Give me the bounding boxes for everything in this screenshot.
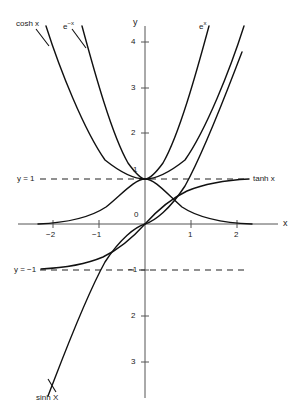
hyperbolic-functions-figure: y x 0 −2 −1 1 2 4 3 2 1 −1 2 3 cosh x e−… [0,0,297,415]
x-tick-label--2: −2 [46,231,55,239]
exp-pos-exponent: x [203,20,206,26]
x-tick-label-2: 2 [234,231,238,239]
asymptote-label-lower: y = −1 [14,266,36,274]
y-tick-label--3: 3 [131,358,135,366]
y-tick-label-1: 1 [133,166,137,174]
x-tick-label--1: −1 [92,231,101,239]
curve-exp-positive-x [38,26,209,224]
y-tick-label-2: 2 [131,129,135,137]
plot-canvas [0,0,297,415]
curve-label-cosh: cosh x [16,20,39,28]
x-tick-label-1: 1 [188,231,192,239]
y-tick-label--1: −1 [128,266,137,274]
asymptote-label-upper: y = 1 [17,175,35,183]
origin-label: 0 [134,211,138,219]
y-tick-label-3: 3 [131,84,135,92]
y-axis-label: y [133,18,138,27]
y-tick-label--2: 2 [131,312,135,320]
x-axis-label: x [283,219,288,228]
leader-line-sinh [48,379,56,392]
curve-label-sinh: sinh X [36,394,58,402]
curve-label-tanh: tanh x [253,175,275,183]
curve-label-exp-positive-x: ex [199,20,206,31]
curve-exp-negative-x [82,26,252,224]
y-tick-label-4: 4 [131,38,135,46]
leader-line-cosh [36,29,49,46]
curve-label-exp-negative-x: e−x [63,20,74,31]
exp-neg-exponent: −x [67,20,74,26]
